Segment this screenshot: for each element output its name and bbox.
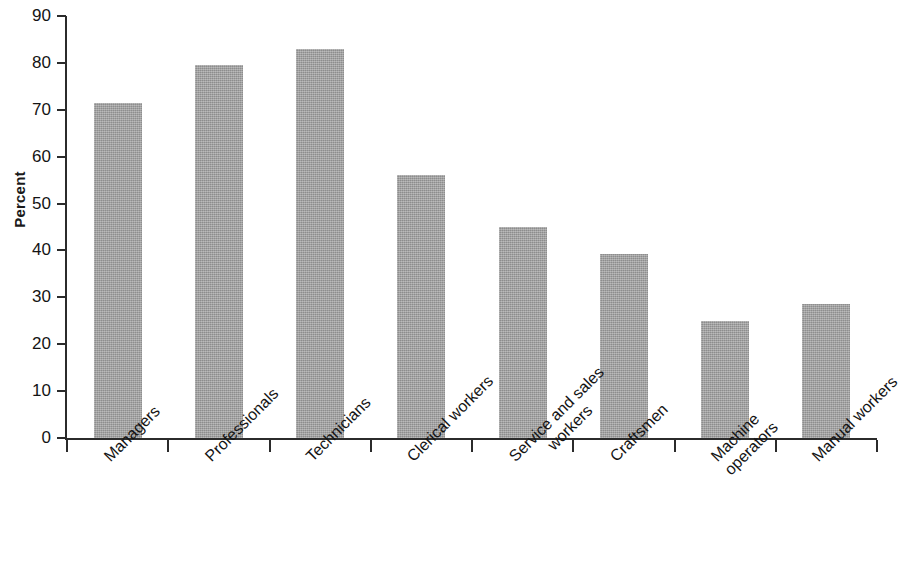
bar (397, 175, 445, 438)
y-axis-tick-label: 30 (5, 288, 51, 305)
y-axis-tick (57, 156, 66, 158)
y-axis-tick (57, 203, 66, 205)
y-axis-tick (57, 249, 66, 251)
y-axis-tick (57, 390, 66, 392)
y-axis-tick-label: 20 (5, 335, 51, 352)
bar (94, 103, 142, 438)
bar (600, 254, 648, 438)
x-axis-tick (66, 440, 68, 452)
y-axis-tick-label: 10 (5, 382, 51, 399)
y-axis-tick (57, 343, 66, 345)
x-axis-tick (471, 440, 473, 452)
x-axis-tick (167, 440, 169, 452)
y-axis-tick-label: 50 (5, 195, 51, 212)
bar (499, 227, 547, 438)
y-axis-tick-label: 60 (5, 148, 51, 165)
y-axis-tick (57, 437, 66, 439)
y-axis-tick-label: 90 (5, 7, 51, 24)
y-axis-tick-label: 70 (5, 101, 51, 118)
y-axis-tick-label: 0 (5, 429, 51, 446)
x-axis-tick (775, 440, 777, 452)
x-axis-tick (370, 440, 372, 452)
y-axis-tick (57, 296, 66, 298)
bar (296, 49, 344, 438)
y-axis-tick (57, 15, 66, 17)
plot-area (67, 16, 877, 438)
y-axis-tick (57, 109, 66, 111)
x-axis-tick (572, 440, 574, 452)
y-axis-tick (57, 62, 66, 64)
y-axis-tick-label: 40 (5, 241, 51, 258)
x-axis-tick (269, 440, 271, 452)
x-axis-tick (674, 440, 676, 452)
y-axis-tick-label: 80 (5, 54, 51, 71)
bar (195, 65, 243, 438)
x-axis-tick (876, 440, 878, 452)
